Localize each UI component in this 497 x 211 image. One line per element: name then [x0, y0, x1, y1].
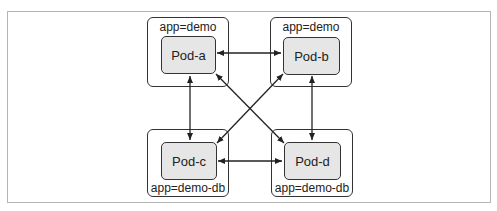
connection-arrows — [0, 0, 497, 211]
